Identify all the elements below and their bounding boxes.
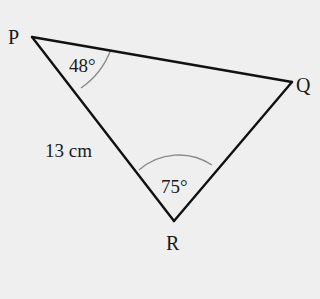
vertex-label-r: R	[166, 233, 179, 253]
side-label-pr: 13 cm	[45, 141, 92, 160]
angle-label-r: 75°	[161, 177, 188, 196]
vertex-label-q: Q	[296, 75, 310, 95]
vertex-label-p: P	[8, 27, 19, 47]
angle-label-p: 48°	[69, 56, 96, 75]
triangle-diagram: P Q R 48° 75° 13 cm	[0, 0, 320, 299]
side-qr	[174, 82, 292, 221]
angle-arc-r	[139, 155, 212, 170]
